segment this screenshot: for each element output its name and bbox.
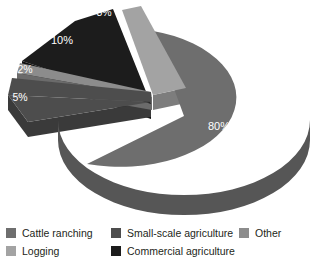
legend-swatch-icon-logging xyxy=(6,246,16,256)
pie-plot-area: 80% 3% 5% 10% 2% xyxy=(0,0,323,222)
legend-item-other[interactable]: Other xyxy=(239,225,319,241)
slice-label-commercial-agriculture: 10% xyxy=(51,34,73,46)
legend-swatch-icon-commercial-agriculture xyxy=(111,246,121,256)
slice-label-cattle-ranching: 80% xyxy=(208,120,230,132)
legend-item-logging[interactable]: Logging xyxy=(6,243,111,259)
legend-item-commercial-agriculture[interactable]: Commercial agriculture xyxy=(111,243,239,259)
slice-label-logging: 3% xyxy=(96,6,111,18)
legend-label-other: Other xyxy=(255,227,281,239)
legend-item-cattle-ranching[interactable]: Cattle ranching xyxy=(6,225,111,241)
legend-swatch-icon-small-scale-agriculture xyxy=(111,228,121,238)
legend-swatch-icon-other xyxy=(239,228,249,238)
legend-label-logging: Logging xyxy=(22,245,59,257)
legend-spacer xyxy=(239,243,319,259)
legend-label-cattle-ranching: Cattle ranching xyxy=(22,227,93,239)
chart-legend: Cattle ranching Logging Small-scale agri… xyxy=(6,224,321,260)
slice-label-other: 2% xyxy=(17,63,32,75)
legend-label-small-scale-agriculture: Small-scale agriculture xyxy=(127,227,233,239)
slice-label-small-scale-agriculture: 5% xyxy=(12,91,27,103)
legend-item-small-scale-agriculture[interactable]: Small-scale agriculture xyxy=(111,225,239,241)
pie-chart: 80% 3% 5% 10% 2% Cattle ranching Logging… xyxy=(0,0,323,263)
legend-label-commercial-agriculture: Commercial agriculture xyxy=(127,245,235,257)
pie-graphic: 80% 3% 5% 10% 2% xyxy=(0,0,323,222)
legend-swatch-icon-cattle-ranching xyxy=(6,228,16,238)
